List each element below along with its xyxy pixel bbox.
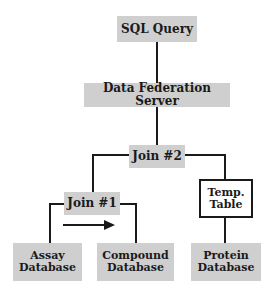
- compound-database-node: Compound Database: [97, 243, 174, 281]
- protein-database-node: Protein Database: [191, 243, 261, 281]
- join1-node: Join #1: [64, 192, 120, 215]
- assay-database-label-line2: Database: [19, 262, 76, 274]
- join1-label: Join #1: [67, 197, 117, 210]
- protein-database-label-line2: Database: [198, 262, 255, 274]
- data-federation-server-node: Data Federation Server: [84, 83, 230, 107]
- temp-table-label-line1: Temp.: [207, 187, 244, 199]
- assay-database-node: Assay Database: [13, 243, 82, 281]
- temp-table-label-line2: Table: [209, 199, 242, 211]
- temp-table-node: Temp. Table: [199, 179, 253, 218]
- data-federation-server-label: Data Federation Server: [84, 82, 230, 107]
- compound-database-label-line2: Database: [107, 262, 164, 274]
- sql-query-label: SQL Query: [121, 23, 193, 36]
- sql-query-node: SQL Query: [117, 16, 197, 42]
- join2-label: Join #2: [132, 150, 182, 163]
- join2-node: Join #2: [129, 145, 185, 168]
